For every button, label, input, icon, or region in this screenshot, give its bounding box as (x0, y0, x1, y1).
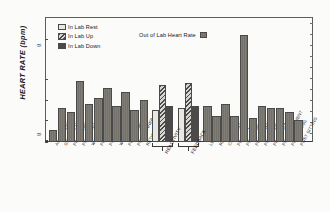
bar (49, 130, 58, 142)
bar (76, 81, 85, 142)
bar (203, 106, 212, 142)
right-axis-tick (310, 89, 313, 90)
legend-label: In Lab Down (68, 43, 101, 49)
bar (258, 106, 267, 142)
y-tick-mark (45, 39, 48, 40)
right-axis-tick (310, 23, 313, 24)
legend-swatch (58, 43, 66, 50)
bar (276, 108, 285, 142)
bar (112, 106, 121, 142)
chart-root: HEART RATE (bpm) 105857565550≈≈ AWAKENIN… (0, 0, 330, 212)
legend-out-of-lab: Out of Lab Heart Rate (139, 32, 207, 39)
legend-item: In Lab Down (58, 41, 101, 51)
legend-item: In Lab Rest (58, 22, 101, 32)
right-axis-tick (310, 100, 313, 101)
bar (140, 100, 149, 142)
bar (185, 83, 192, 142)
bar (294, 120, 303, 142)
legend: In Lab RestIn Lab UpIn Lab Down (58, 22, 101, 51)
bar (285, 112, 294, 142)
legend-label: In Lab Rest (68, 24, 98, 30)
bar (221, 104, 230, 142)
right-axis-tick (310, 56, 313, 57)
bar (240, 35, 249, 142)
bar (230, 116, 239, 142)
right-axis-tick (310, 111, 313, 112)
bar (267, 108, 276, 142)
right-axis-tick (310, 45, 313, 46)
bar (130, 110, 139, 142)
legend-swatch (58, 33, 66, 40)
legend-out-of-lab-swatch (200, 32, 208, 39)
legend-out-of-lab-label: Out of Lab Heart Rate (139, 32, 196, 38)
legend-swatch (58, 24, 66, 31)
right-axis-tick (310, 78, 313, 79)
bar (121, 92, 130, 142)
bar (94, 98, 103, 142)
y-tick-mark (45, 142, 48, 143)
bar (178, 108, 185, 142)
legend-item: In Lab Up (58, 32, 101, 42)
y-tick-mark (45, 100, 48, 101)
axis-break-mark: ≈ (36, 131, 42, 138)
bar (249, 118, 258, 142)
y-tick-mark (45, 79, 48, 80)
bar (103, 88, 112, 142)
right-axis-tick (310, 34, 313, 35)
y-tick-mark (45, 120, 48, 121)
bar (58, 108, 67, 142)
bar (152, 110, 159, 142)
right-axis-tick (310, 67, 313, 68)
bar (159, 85, 166, 142)
bar (67, 112, 76, 142)
y-axis-title: HEART RATE (bpm) (18, 15, 27, 111)
group-bracket-stem (188, 147, 189, 151)
bar (212, 116, 221, 142)
axis-break-mark: ≈ (36, 43, 42, 50)
legend-label: In Lab Up (68, 33, 93, 39)
bar (85, 104, 94, 142)
group-bracket-stem (162, 147, 163, 151)
right-axis-tick (310, 133, 313, 134)
